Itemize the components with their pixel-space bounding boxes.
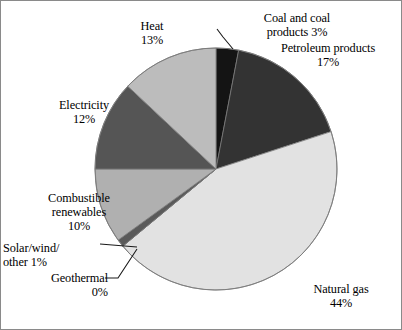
slice-label-electricity: Electricity 12% <box>33 98 135 126</box>
slice-label-electricity-line2: 12% <box>33 112 135 126</box>
slice-label-heat-line1: Heat <box>121 19 183 33</box>
slice-label-combustible-renewables: Combustible renewables 10% <box>25 191 133 234</box>
slice-label-coal: Coal and coal products 3% <box>237 11 357 39</box>
slice-label-petroleum-line2: 17% <box>255 55 401 69</box>
slice-label-heat: Heat 13% <box>121 19 183 47</box>
slice-label-geothermal-line1: Geothermal <box>7 271 108 285</box>
leader-line-coal <box>217 29 233 49</box>
slice-label-natural-gas-line2: 44% <box>287 296 395 310</box>
slice-label-solar-line1: Solar/wind/ <box>3 241 89 255</box>
pie-chart-figure: Coal and coal products 3% Petroleum prod… <box>0 0 402 330</box>
slice-label-electricity-line1: Electricity <box>33 98 135 112</box>
slice-label-petroleum: Petroleum products 17% <box>255 41 401 69</box>
slice-label-solar-wind-other: Solar/wind/ other 1% <box>3 241 89 269</box>
slice-label-geothermal: Geothermal 0% <box>7 271 108 299</box>
slice-label-combustible-line1: Combustible <box>25 191 133 205</box>
slice-label-combustible-line2: renewables <box>25 205 133 219</box>
slice-label-solar-line2: other 1% <box>3 255 89 269</box>
slice-label-coal-line2: products 3% <box>237 25 357 39</box>
slice-label-natural-gas-line1: Natural gas <box>287 282 395 296</box>
pie-slice-group <box>95 48 337 290</box>
slice-label-combustible-line3: 10% <box>25 219 133 233</box>
slice-label-heat-line2: 13% <box>121 33 183 47</box>
slice-label-petroleum-line1: Petroleum products <box>255 41 401 55</box>
slice-label-coal-line1: Coal and coal <box>237 11 357 25</box>
slice-label-geothermal-line2: 0% <box>7 285 108 299</box>
slice-label-natural-gas: Natural gas 44% <box>287 282 395 310</box>
